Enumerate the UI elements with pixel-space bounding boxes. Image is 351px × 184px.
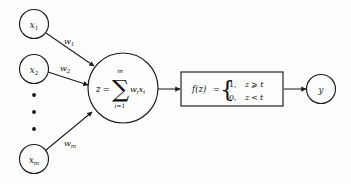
activation-case-2-condition: z<t <box>244 93 264 102</box>
vertical-ellipsis <box>32 93 36 131</box>
activation-function-name: f(z) <box>191 84 206 94</box>
diagram-canvas: x1 x2 xm w1 w2 wm z = ∑ m i=1 wixi <box>0 0 351 184</box>
sigma-lower-limit: i=1 <box>115 102 126 109</box>
summation-equals: = <box>103 85 110 94</box>
sigma-symbol: ∑ <box>112 75 129 103</box>
summation-lhs: z <box>95 84 101 94</box>
weight-label-w2: w2 <box>60 64 71 74</box>
weight-label-w1: w1 <box>64 37 74 47</box>
weight-label-wm: wm <box>64 139 76 149</box>
ellipsis-dot <box>32 93 36 97</box>
activation-case-2-value: 0, <box>229 93 237 102</box>
sigma-upper-limit: m <box>117 67 123 74</box>
ellipsis-dot <box>32 110 36 114</box>
ellipsis-dot <box>32 127 36 131</box>
perceptron-diagram: x1 x2 xm w1 w2 wm z = ∑ m i=1 wixi <box>0 0 351 184</box>
activation-case-1-condition: z⩾t <box>244 80 264 89</box>
activation-equals: = <box>213 85 220 94</box>
output-node-y-label: y <box>318 85 324 95</box>
activation-case-1-value: 1, <box>229 80 237 89</box>
